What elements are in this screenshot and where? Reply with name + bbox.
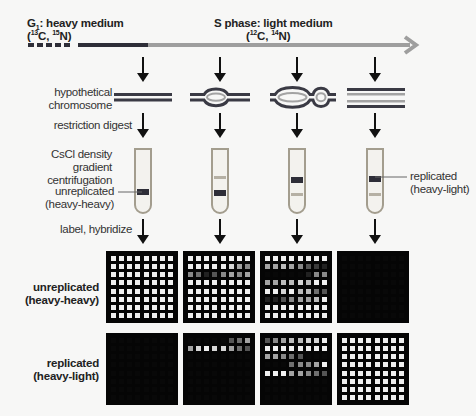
microarray-spot (144, 371, 149, 376)
microarray-spot (322, 264, 327, 269)
microarray-spot (289, 338, 294, 343)
microarray-spot (135, 346, 140, 351)
microarray-spot (358, 297, 363, 302)
microarray-spot (212, 338, 217, 343)
microarray-spot (152, 305, 157, 310)
microarray-spot (196, 305, 201, 310)
microarray-spot (342, 272, 347, 277)
microarray-spot (127, 379, 132, 384)
microarray-spot (366, 272, 371, 277)
microarray-spot (229, 272, 234, 277)
microarray-spot (375, 354, 380, 359)
microarray-spot (245, 371, 250, 376)
microarray-spot (350, 313, 355, 318)
microarray-spot (314, 297, 319, 302)
microarray-spot (306, 264, 311, 269)
microarray-spot (273, 313, 278, 318)
microarray-spot (298, 256, 303, 261)
microarray-spot (204, 338, 209, 343)
tube-label-line-1: unreplicated (40, 185, 114, 198)
microarray-spot (188, 289, 193, 294)
microarray-spot (127, 354, 132, 359)
microarray-spot (350, 346, 355, 351)
microarray-spot (322, 346, 327, 351)
microarray-spot (399, 395, 404, 400)
microarray-spot (383, 338, 388, 343)
microarray-spot (265, 272, 270, 277)
microarray-spot (152, 387, 157, 392)
microarray-spot (281, 264, 286, 269)
microarray-spot (289, 256, 294, 261)
microarray-spot (237, 395, 242, 400)
microarray-spot (168, 338, 173, 343)
microarray-spot (350, 297, 355, 302)
microarray-spot (221, 289, 226, 294)
microarray-spot (168, 371, 173, 376)
microarray-spot (204, 280, 209, 285)
microarray-spot (350, 387, 355, 392)
microarray-spot (204, 289, 209, 294)
microarray-spot (111, 256, 116, 261)
microarray-spot (306, 256, 311, 261)
microarray-spot (204, 395, 209, 400)
microarray-spot (144, 354, 149, 359)
microarray-spot (237, 346, 242, 351)
microarray-spot (188, 264, 193, 269)
microarray-spot (281, 272, 286, 277)
microarray-spot (350, 289, 355, 294)
microarray-spot (111, 264, 116, 269)
microarray-spot (127, 256, 132, 261)
microarray-spot (160, 395, 165, 400)
microarray-spot (306, 280, 311, 285)
tube-label-unreplicated: unreplicated (heavy-heavy) (40, 185, 114, 211)
microarray-spot (144, 280, 149, 285)
microarray-spot (160, 256, 165, 261)
microarray-unreplicated-t1 (183, 251, 255, 323)
microarray-spot (366, 264, 371, 269)
microarray-spot (188, 395, 193, 400)
microarray-spot (298, 313, 303, 318)
microarray-spot (204, 371, 209, 376)
microarray-spot (375, 313, 380, 318)
microarray-spot (160, 305, 165, 310)
microarray-spot (221, 379, 226, 384)
microarray-spot (160, 354, 165, 359)
microarray-spot (265, 305, 270, 310)
microarray-spot (289, 354, 294, 359)
microarray-spot (358, 272, 363, 277)
microarray-spot (144, 395, 149, 400)
microarray-spot (127, 289, 132, 294)
microarray-spot (168, 305, 173, 310)
microarray-spot (196, 280, 201, 285)
microarray-spot (204, 313, 209, 318)
microarray-spot (391, 256, 396, 261)
microarray-spot (196, 264, 201, 269)
microarray-spot (188, 387, 193, 392)
microarray-spot (399, 362, 404, 367)
microarray-spot (188, 346, 193, 351)
microarray-spot (399, 313, 404, 318)
microarray-spot (273, 338, 278, 343)
microarray-spot (245, 272, 250, 277)
microarray-spot (265, 280, 270, 285)
microarray-spot (168, 264, 173, 269)
microarray-spot (265, 313, 270, 318)
row-label-unreplicated: unreplicated (heavy-heavy) (10, 281, 99, 307)
microarray-spot (168, 362, 173, 367)
microarray-spot (289, 371, 294, 376)
microarray-spot (204, 346, 209, 351)
microarray-spot (144, 387, 149, 392)
row-label-line-1: replicated (10, 357, 99, 370)
microarray-spot (245, 297, 250, 302)
microarray-spot (111, 354, 116, 359)
microarray-spot (237, 371, 242, 376)
microarray-spot (306, 313, 311, 318)
microarray-spot (314, 362, 319, 367)
microarray-spot (265, 362, 270, 367)
microarray-spot (135, 305, 140, 310)
microarray-spot (342, 395, 347, 400)
microarray-spot (322, 338, 327, 343)
microarray-spot (229, 395, 234, 400)
microarray-spot (196, 338, 201, 343)
microarray-spot (342, 313, 347, 318)
